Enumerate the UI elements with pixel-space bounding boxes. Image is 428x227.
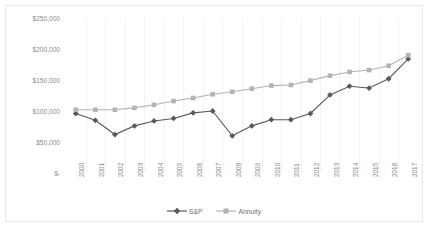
data-point-marker (366, 85, 372, 91)
data-point-marker (171, 116, 177, 122)
data-point-marker (406, 53, 411, 58)
data-point-marker (151, 118, 157, 124)
data-point-marker (268, 117, 274, 123)
y-tick-label: $50,000 (6, 139, 60, 146)
data-point-marker (210, 92, 215, 97)
data-point-marker (347, 70, 352, 75)
data-point-marker (152, 103, 157, 108)
x-tick-label: 2008 (235, 163, 242, 177)
x-tick-label: 2002 (117, 163, 124, 177)
data-point-marker (113, 107, 118, 112)
data-point-marker (288, 117, 294, 123)
data-point-marker (191, 96, 196, 101)
data-point-marker (171, 99, 176, 104)
data-point-marker (347, 83, 353, 89)
data-point-marker (386, 63, 391, 68)
data-point-marker (93, 107, 98, 112)
x-tick-label: 2001 (98, 163, 105, 177)
data-point-marker (289, 83, 294, 88)
data-point-marker (249, 123, 255, 129)
x-tick-label: 2011 (293, 163, 300, 177)
x-tick-label: 2006 (196, 163, 203, 177)
legend-diamond-icon (167, 207, 187, 215)
x-tick-label: 2000 (78, 163, 85, 177)
data-point-marker (73, 107, 78, 112)
x-tick-label: 2007 (215, 163, 222, 177)
y-tick-label: $- (6, 170, 60, 177)
legend-label: S&P (189, 208, 203, 215)
x-tick-label: 2004 (157, 163, 164, 177)
x-tick-label: 2012 (313, 163, 320, 177)
legend-item[interactable]: S&P (167, 207, 203, 215)
x-tick-label: 2013 (333, 163, 340, 177)
data-point-marker (230, 89, 235, 94)
legend-label: Annuity (238, 208, 261, 215)
y-tick-label: $200,000 (6, 46, 60, 53)
data-point-marker (249, 86, 254, 91)
x-tick-label: 2014 (352, 163, 359, 177)
data-point-marker (132, 106, 137, 111)
y-tick-label: $100,000 (6, 108, 60, 115)
y-tick-label: $250,000 (6, 15, 60, 22)
x-tick-label: 2015 (372, 163, 379, 177)
legend-item[interactable]: Annuity (216, 207, 261, 215)
data-point-marker (269, 83, 274, 88)
data-point-marker (132, 123, 138, 129)
x-tick-label: 2005 (176, 163, 183, 177)
data-point-marker (328, 73, 333, 78)
x-tick-label: 2017 (411, 163, 418, 177)
data-point-marker (190, 110, 196, 116)
series-layer (66, 18, 418, 173)
x-tick-label: 2003 (137, 163, 144, 177)
series-line (76, 59, 408, 136)
chart-legend: S&PAnnuity (6, 207, 422, 215)
legend-square-icon (216, 207, 236, 215)
x-tick-label: 2016 (391, 163, 398, 177)
data-point-marker (367, 68, 372, 73)
plot-area (66, 18, 418, 173)
x-tick-label: 2009 (254, 163, 261, 177)
y-tick-label: $150,000 (6, 77, 60, 84)
chart-container: $-$50,000$100,000$150,000$200,000$250,00… (5, 5, 423, 222)
data-point-marker (308, 78, 313, 83)
x-tick-label: 2010 (274, 163, 281, 177)
series-line (76, 55, 408, 110)
